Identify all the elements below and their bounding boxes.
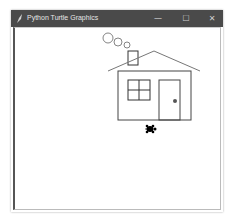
door-knob — [173, 99, 177, 103]
house-window — [128, 80, 150, 100]
smoke-circles — [103, 33, 130, 48]
roof — [108, 51, 200, 71]
chimney — [128, 51, 138, 65]
turtle-cursor-icon — [145, 125, 157, 134]
turtle-drawing — [0, 0, 235, 221]
door — [159, 80, 180, 120]
